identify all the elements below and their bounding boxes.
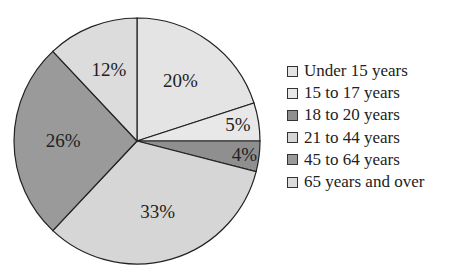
legend-label: 21 to 44 years (304, 128, 400, 148)
legend-swatch (287, 66, 298, 77)
legend-swatch (287, 132, 298, 143)
legend-swatch (287, 177, 298, 188)
legend-item-21-to-44: 21 to 44 years (287, 127, 424, 149)
legend-label: 15 to 17 years (304, 83, 400, 103)
legend: Under 15 years 15 to 17 years 18 to 20 y… (287, 60, 424, 193)
legend-swatch (287, 88, 298, 99)
legend-item-65-and-over: 65 years and over (287, 171, 424, 193)
slice-percent-label: 33% (140, 201, 175, 222)
legend-item-18-to-20: 18 to 20 years (287, 104, 424, 126)
legend-label: Under 15 years (304, 61, 408, 81)
legend-label: 18 to 20 years (304, 105, 400, 125)
slice-percent-label: 26% (46, 130, 81, 151)
legend-item-15-to-17: 15 to 17 years (287, 82, 424, 104)
pie-chart: 20%5%4%33%26%12% (0, 0, 280, 270)
slice-percent-label: 5% (225, 114, 251, 135)
slice-percent-label: 20% (163, 70, 198, 91)
legend-swatch (287, 154, 298, 165)
legend-label: 45 to 64 years (304, 150, 400, 170)
legend-item-45-to-64: 45 to 64 years (287, 149, 424, 171)
legend-label: 65 years and over (304, 172, 424, 192)
legend-swatch (287, 110, 298, 121)
slice-percent-label: 12% (92, 59, 127, 80)
slice-percent-label: 4% (232, 144, 258, 165)
legend-item-under-15: Under 15 years (287, 60, 424, 82)
